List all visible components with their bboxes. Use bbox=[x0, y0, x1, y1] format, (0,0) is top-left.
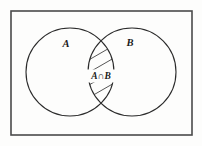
set-a-label: A bbox=[61, 38, 69, 49]
venn-diagram-figure: A B A∩B bbox=[0, 0, 202, 146]
venn-diagram-canvas: A B A∩B bbox=[0, 0, 202, 146]
set-b-label: B bbox=[125, 37, 133, 48]
intersection-hatch-fill bbox=[57, 0, 145, 129]
hatch-line bbox=[57, 0, 145, 41]
hatch-line bbox=[57, 0, 145, 15]
intersection-label: A∩B bbox=[90, 71, 111, 81]
hatch-line bbox=[57, 0, 145, 28]
